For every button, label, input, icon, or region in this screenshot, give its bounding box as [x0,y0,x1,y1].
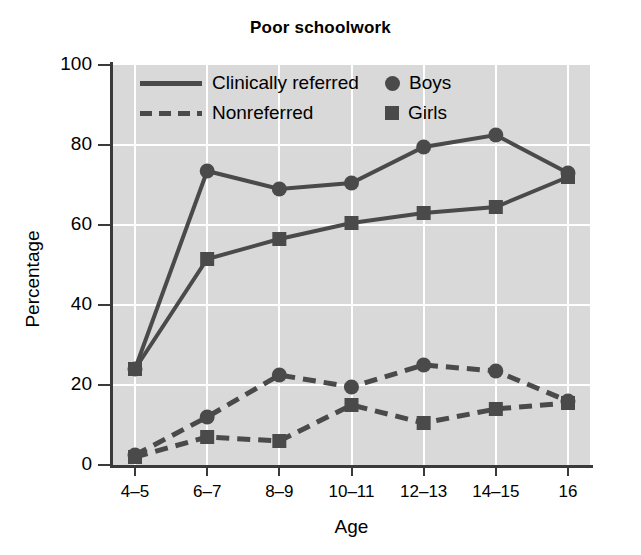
data-point-circle [344,380,359,395]
data-point-circle [488,364,503,379]
legend-label-clinically-referred: Clinically referred [212,72,359,94]
data-point-circle [416,140,431,155]
data-point-circle [488,128,503,143]
data-point-square [272,232,286,246]
series-line [135,177,568,369]
data-point-square [417,206,431,220]
data-point-square [128,450,142,464]
data-point-circle [272,182,287,197]
legend-entry-clinically-referred: Clinically referred [140,72,359,94]
data-point-square [128,362,142,376]
data-point-circle [416,358,431,373]
data-point-square [489,402,503,416]
legend-label-boys: Boys [409,72,451,94]
data-point-square [345,398,359,412]
data-point-circle [200,410,215,425]
chart-figure: Poor schoolwork 020406080100 4–56–78–910… [0,0,641,555]
data-point-square [561,396,575,410]
dashed-line-swatch-icon [140,111,202,116]
data-point-circle [200,164,215,179]
solid-line-swatch-icon [140,81,202,86]
data-point-square [417,416,431,430]
data-point-circle [344,176,359,191]
data-point-square [272,434,286,448]
legend-entry-nonreferred: Nonreferred [140,102,313,124]
data-point-square [489,200,503,214]
chart-legend: Clinically referred Nonreferred Boys Gir… [140,72,570,128]
legend-entry-girls: Girls [385,102,447,124]
data-point-square [200,252,214,266]
data-point-square [345,216,359,230]
square-marker-icon [385,106,399,120]
circle-marker-icon [385,76,400,91]
legend-entry-boys: Boys [385,72,451,94]
data-point-circle [272,368,287,383]
legend-label-nonreferred: Nonreferred [212,102,313,124]
data-point-square [561,170,575,184]
data-point-square [200,430,214,444]
legend-label-girls: Girls [408,102,447,124]
